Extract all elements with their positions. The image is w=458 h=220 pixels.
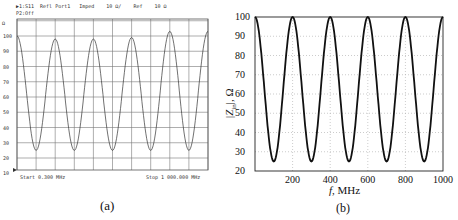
sim-y-tick: 90 — [235, 30, 245, 41]
sim-x-tick: 800 — [398, 174, 413, 185]
sim-y-tick: 20 — [235, 165, 245, 176]
sim-x-axis-label: f, MHz — [329, 184, 360, 196]
sim-y-tick: 100 — [235, 11, 250, 22]
sim-y-tick: 80 — [235, 50, 245, 61]
sim-y-tick: 70 — [235, 69, 245, 80]
sim-y-axis-label: |Zin|, Ω — [223, 88, 238, 118]
sim-y-tick: 40 — [235, 127, 245, 138]
sim-x-tick: 1000 — [433, 174, 453, 185]
sim-x-tick: 600 — [360, 174, 375, 185]
caption-b: (b) — [336, 201, 350, 216]
sim-y-tick: 30 — [235, 146, 245, 157]
sim-x-tick: 200 — [285, 174, 300, 185]
